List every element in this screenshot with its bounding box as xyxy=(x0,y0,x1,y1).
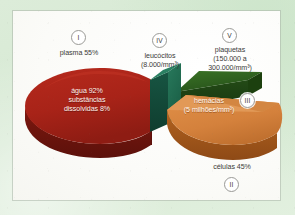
label-leucocitos-value: (8.000/mm³) xyxy=(129,61,191,70)
badge-five: V xyxy=(222,28,237,43)
plasma-side-edge xyxy=(151,131,152,145)
badge-two: II xyxy=(224,177,239,192)
label-celulas: células 45% xyxy=(199,163,265,172)
label-plasma-substancias: substâncias xyxy=(48,96,126,105)
label-plaquetas: plaquetas xyxy=(199,46,261,55)
blood-composition-figure: I plasma 55% água 92% substâncias dissol… xyxy=(0,0,295,215)
label-hemacias: hemácias xyxy=(180,97,238,106)
label-hemacias-value: (5 milhões/mm³) xyxy=(168,106,250,115)
pie-chart-illustration: I plasma 55% água 92% substâncias dissol… xyxy=(0,0,295,215)
label-plasma: plasma 55% xyxy=(42,49,116,58)
label-plaquetas-value-1: (150.000 a xyxy=(197,55,263,64)
label-leucocitos: leucócitos xyxy=(131,52,189,61)
label-plasma-agua: água 92% xyxy=(48,87,126,96)
badge-one: I xyxy=(71,30,86,45)
label-plasma-dissolvidas: dissolvidas 8% xyxy=(43,105,131,114)
badge-four: IV xyxy=(152,33,167,48)
leucocitos-side-wall xyxy=(150,72,168,132)
label-plaquetas-value-2: 300.000/mm³) xyxy=(194,64,266,73)
